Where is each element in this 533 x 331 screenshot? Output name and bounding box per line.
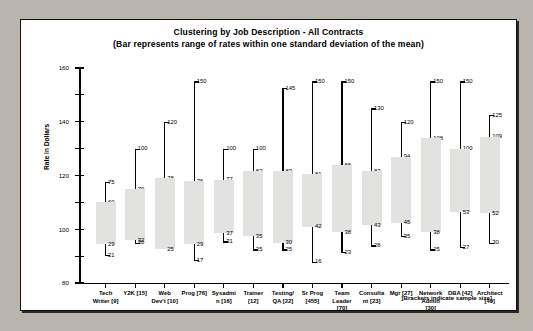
range-bar[interactable] — [421, 138, 441, 232]
range-bar[interactable] — [184, 181, 204, 244]
range-bar[interactable] — [480, 137, 500, 214]
upper-whisker — [460, 81, 461, 148]
x-tick — [282, 283, 283, 288]
value-label-max: 120 — [167, 119, 177, 125]
range-bar[interactable] — [125, 189, 145, 240]
y-tick-label: 120 — [59, 171, 69, 178]
value-label-min: 30 — [492, 239, 499, 245]
y-tick: 80 — [75, 175, 84, 176]
value-label-box-bot: 25 — [167, 246, 174, 252]
value-label-max: 120 — [404, 119, 414, 125]
range-bar[interactable] — [273, 171, 293, 242]
upper-whisker — [194, 81, 195, 180]
range-bar[interactable] — [302, 174, 322, 226]
value-label-box-bot: 53 — [463, 209, 470, 215]
x-tick — [135, 283, 136, 288]
value-label-box-bot: 38 — [433, 229, 440, 235]
x-tick — [371, 283, 372, 288]
value-label-max: 145 — [285, 85, 295, 91]
upper-whisker — [164, 122, 165, 178]
range-bar[interactable] — [155, 178, 175, 249]
lower-whisker — [312, 227, 313, 262]
lower-whisker — [194, 244, 195, 260]
x-tick — [164, 283, 165, 288]
x-tick — [253, 283, 254, 288]
value-label-min: 28 — [374, 242, 381, 248]
chart-title: Clustering by Job Description - All Cont… — [21, 26, 516, 38]
x-category-label-line: [30] — [410, 305, 452, 313]
value-label-min: 35 — [404, 233, 411, 239]
value-label-min: 25 — [433, 246, 440, 252]
value-label-min: 23 — [345, 249, 352, 255]
plot-area: 020406080100120140160 756021291007030321… — [79, 68, 509, 283]
value-label-max: 150 — [433, 78, 443, 84]
value-label-min: 27 — [463, 244, 470, 250]
x-tick — [223, 283, 224, 288]
lower-whisker — [430, 232, 431, 249]
lower-whisker — [401, 223, 402, 236]
y-tick-label: 80 — [62, 279, 69, 286]
x-category-label-line: [70] — [321, 305, 363, 313]
upper-whisker — [223, 149, 224, 180]
value-label-max: 150 — [197, 78, 207, 84]
x-tick — [430, 283, 431, 288]
value-label-min: 31 — [226, 238, 233, 244]
chart-title-block: Clustering by Job Description - All Cont… — [21, 26, 516, 50]
upper-whisker — [371, 108, 372, 171]
lower-whisker — [460, 212, 461, 247]
range-bar[interactable] — [450, 149, 470, 212]
lower-whisker — [105, 244, 106, 255]
value-label-box-bot: 30 — [285, 239, 292, 245]
lower-whisker — [371, 225, 372, 245]
lower-whisker — [341, 232, 342, 252]
value-label-box-bot: 32 — [138, 237, 145, 243]
upper-whisker — [105, 182, 106, 202]
value-label-box-bot: 29 — [108, 241, 115, 247]
range-bar[interactable] — [362, 171, 382, 225]
value-label-max: 100 — [226, 145, 236, 151]
y-axis-title: Rate in Dollars — [43, 124, 50, 170]
screenshot-root: Clustering by Job Description - All Cont… — [0, 0, 533, 331]
range-bar[interactable] — [243, 171, 263, 236]
upper-whisker — [312, 81, 313, 174]
y-tick: 0 — [75, 282, 84, 283]
y-tick: 20 — [75, 256, 84, 257]
value-label-min: 21 — [108, 252, 115, 258]
x-tick — [489, 283, 490, 288]
lower-whisker — [489, 213, 490, 243]
value-label-min: 16 — [315, 258, 322, 264]
value-label-max: 100 — [256, 145, 266, 151]
value-label-box-bot: 42 — [315, 223, 322, 229]
y-tick: 100 — [75, 148, 84, 149]
upper-whisker — [341, 81, 342, 164]
upper-whisker — [401, 122, 402, 157]
value-label-box-bot: 37 — [226, 230, 233, 236]
upper-whisker — [253, 149, 254, 172]
y-tick: 60 — [75, 202, 84, 203]
value-label-min: 17 — [197, 257, 204, 263]
lower-whisker — [282, 243, 283, 250]
range-bar[interactable] — [96, 202, 116, 244]
range-bar[interactable] — [332, 165, 352, 232]
value-label-max: 130 — [374, 105, 384, 111]
x-tick — [105, 283, 106, 288]
range-bar[interactable] — [391, 157, 411, 223]
value-label-max: 150 — [315, 78, 325, 84]
value-label-box-bot: 45 — [404, 219, 411, 225]
y-tick-label: 160 — [59, 64, 69, 71]
upper-whisker — [282, 88, 283, 171]
chart-footnote: [Brackets indicate sample size] — [21, 294, 492, 301]
y-tick: 160 — [75, 67, 84, 68]
x-tick — [401, 283, 402, 288]
upper-whisker — [135, 149, 136, 189]
y-tick-label: 140 — [59, 118, 69, 125]
y-tick-label: 100 — [59, 225, 69, 232]
chart-frame: Clustering by Job Description - All Cont… — [20, 19, 517, 311]
value-label-box-bot: 29 — [197, 241, 204, 247]
range-bar[interactable] — [214, 180, 234, 234]
x-tick — [460, 283, 461, 288]
upper-whisker — [489, 115, 490, 137]
value-label-box-bot: 43 — [374, 222, 381, 228]
y-tick: 140 — [75, 94, 84, 95]
value-label-box-bot: 38 — [345, 229, 352, 235]
